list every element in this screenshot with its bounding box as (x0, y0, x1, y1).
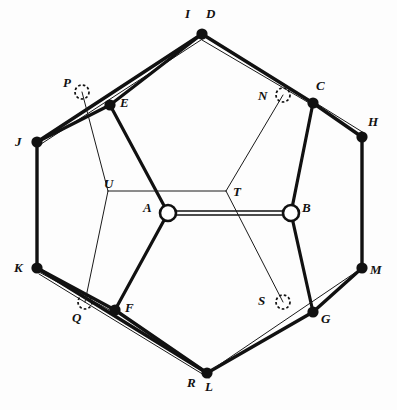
vertex-label-E: E (120, 96, 129, 109)
vertex-label-M: M (370, 263, 382, 276)
node-A[interactable] (160, 205, 176, 221)
node-L[interactable] (201, 367, 212, 378)
node-J[interactable] (31, 136, 42, 147)
vertex-label-K: K (14, 261, 23, 274)
edge-M-G (313, 268, 362, 312)
vertex-label-F: F (125, 301, 134, 314)
vertex-label-R: R (187, 376, 196, 389)
thin-K-L-rail (39, 274, 209, 378)
node-M[interactable] (356, 262, 367, 273)
vertex-label-I: I (185, 7, 190, 20)
node-C[interactable] (307, 97, 318, 108)
thin-L-M (207, 268, 362, 373)
edge-J-E (37, 105, 110, 142)
edge-E-A (110, 105, 168, 213)
node-B[interactable] (283, 205, 299, 221)
edge-B-G (291, 213, 313, 312)
edge-B-C (291, 103, 313, 213)
vertex-label-N: N (258, 89, 267, 102)
node-F[interactable] (109, 304, 120, 315)
vertex-label-T: T (233, 185, 241, 198)
edge-A-B (176, 211, 283, 215)
vertex-label-D: D (206, 7, 215, 20)
vertex-label-L: L (205, 380, 213, 393)
vertex-label-A: A (143, 201, 152, 214)
vertex-label-C: C (316, 79, 325, 92)
thin-N-T (226, 95, 283, 191)
vertex-label-U: U (104, 177, 113, 190)
geometry-diagram (0, 0, 397, 410)
node-E[interactable] (104, 99, 115, 110)
vertex-label-G: G (321, 312, 330, 325)
edge-C-H (313, 103, 362, 137)
vertex-label-H: H (368, 115, 378, 128)
vertex-label-J: J (15, 135, 22, 148)
edge-A-F (115, 213, 168, 310)
thin-U-Q (85, 191, 108, 302)
thin-T-S (226, 191, 283, 302)
edge-G-L (207, 312, 313, 373)
figure-canvas: A B C D E F G H I J K L M N P Q R S T U (0, 0, 397, 410)
thick-edge-group (37, 34, 362, 373)
node-K[interactable] (31, 262, 42, 273)
vertex-label-S: S (258, 294, 265, 307)
thin-C-H-rail (311, 100, 364, 133)
edge-K-L (37, 268, 207, 373)
node-H[interactable] (356, 131, 367, 142)
vertex-label-B: B (302, 201, 311, 214)
vertex-label-Q: Q (72, 311, 81, 324)
node-G[interactable] (307, 306, 318, 317)
node-D[interactable] (196, 28, 207, 39)
vertex-label-P: P (63, 76, 71, 89)
